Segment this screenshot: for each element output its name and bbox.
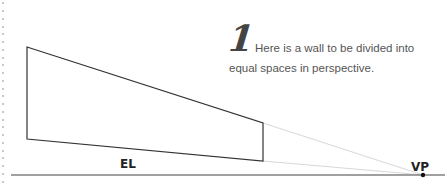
- bottom-guide-line: [263, 161, 423, 175]
- vanishing-point-label: VP: [411, 160, 429, 174]
- wall-shape: [27, 47, 263, 161]
- step-caption: 1 Here is a wall to be divided into equa…: [229, 24, 429, 78]
- margin-dots: [2, 2, 4, 183]
- eye-level-label: EL: [120, 157, 136, 171]
- step-number: 1: [228, 24, 254, 52]
- top-guide-line: [263, 123, 423, 175]
- step-text: Here is a wall to be divided into equal …: [229, 24, 429, 78]
